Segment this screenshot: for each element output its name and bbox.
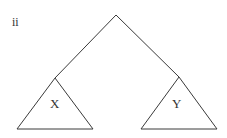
- left-subtree-label: X: [50, 96, 60, 111]
- right-branch: [116, 15, 179, 77]
- panel-label: ii: [12, 15, 19, 29]
- tree-diagram: ii X Y: [0, 0, 227, 138]
- right-subtree-label: Y: [172, 96, 182, 111]
- left-branch: [55, 15, 116, 78]
